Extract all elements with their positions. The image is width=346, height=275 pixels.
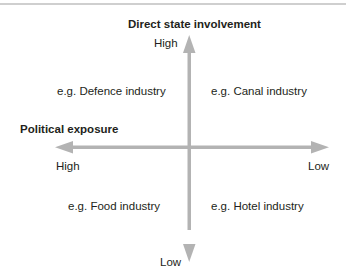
arrow-left-icon — [55, 141, 73, 154]
quadrant-bottom-right: e.g. Hotel industry — [211, 199, 304, 213]
arrow-up-icon — [183, 35, 196, 53]
arrow-right-icon — [311, 141, 329, 154]
quadrant-top-left: e.g. Defence industry — [57, 84, 166, 98]
quadrant-bottom-left: e.g. Food industry — [68, 199, 160, 213]
horizontal-axis-arrow — [55, 141, 329, 154]
horizontal-axis-title: Political exposure — [20, 122, 118, 136]
vertical-axis-low-label: Low — [160, 255, 181, 269]
horizontal-axis-high-label: High — [56, 159, 80, 173]
arrow-down-icon — [183, 244, 196, 262]
vertical-axis-title: Direct state involvement — [128, 17, 261, 31]
horizontal-axis-low-label: Low — [308, 159, 329, 173]
quadrant-top-right: e.g. Canal industry — [211, 84, 307, 98]
vertical-axis-high-label: High — [154, 36, 178, 50]
